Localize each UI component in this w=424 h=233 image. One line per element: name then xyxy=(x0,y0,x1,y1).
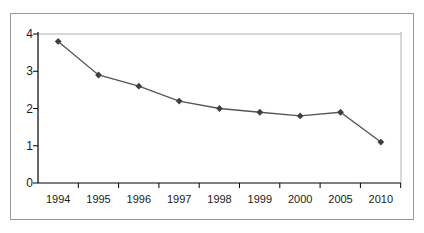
plot-area: 43210 1994199519961997199819992000200520… xyxy=(11,14,415,221)
x-axis-tick-label: 1996 xyxy=(127,194,151,205)
x-axis-tick-label: 2005 xyxy=(328,194,352,205)
x-axis-tick-label: 2000 xyxy=(288,194,312,205)
x-axis-tick-label: 1999 xyxy=(248,194,272,205)
cropped-chart-title xyxy=(0,0,424,4)
chart-frame: 43210 1994199519961997199819992000200520… xyxy=(10,13,414,220)
x-axis-tick-label: 1998 xyxy=(207,194,231,205)
x-axis-tick-label: 1997 xyxy=(167,194,191,205)
x-axis-tick-label: 1995 xyxy=(86,194,110,205)
x-axis-labels: 199419951996199719981999200020052010 xyxy=(11,14,415,221)
x-axis-tick-label: 1994 xyxy=(46,194,70,205)
x-axis-tick-label: 2010 xyxy=(369,194,393,205)
